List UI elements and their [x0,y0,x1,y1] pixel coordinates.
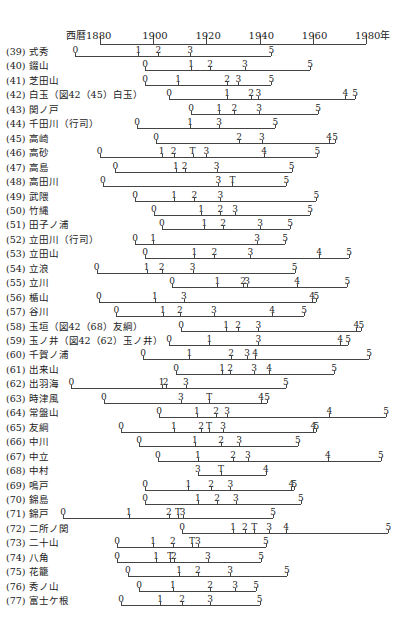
marker-label: 2 [224,75,230,84]
marker-label: 4 [326,133,332,142]
row-label: (71) 錦戸 [6,508,49,519]
marker-label: 5 [345,335,351,344]
marker-label: 2 [212,248,218,257]
marker-label: 3 [190,263,196,272]
row-label: (75) 花籠 [6,566,49,577]
marker-label: 3 [178,393,184,402]
marker-label: 0 [118,422,124,431]
marker-label: 3 [211,306,217,315]
row-label: (74) 八角 [6,552,49,563]
row-span-line [169,345,348,346]
row-label: (54) 立浪 [6,263,49,274]
row-span-line [158,461,381,462]
row-label: (65) 友綱 [6,422,49,433]
row-label: (67) 中立 [6,451,49,462]
marker-label: 0 [132,191,138,200]
row-span-line [121,605,260,606]
row-span-line [145,258,349,259]
marker-label: 1 [175,75,181,84]
row-span-line [154,215,310,216]
marker-label: 5 [283,378,289,387]
row-span-line [145,504,301,505]
row-span-line [104,403,267,404]
row-span-line [135,201,316,202]
marker-label: 5 [287,219,293,228]
marker-label: 3 [251,364,257,373]
marker-label: 3 [187,46,193,55]
marker-label: 1 [152,292,158,301]
marker-label: T [218,465,224,474]
marker-label: 1 [170,581,176,590]
row-span-line [115,172,291,173]
marker-label: 5 [307,60,313,69]
row-label: (57) 谷川 [6,306,49,317]
row-label: (76) 秀ノ山 [6,581,59,592]
marker-label: 2 [166,508,172,517]
row-label: (60) 千賀ノ浦 [6,349,69,360]
marker-label: 0 [96,292,102,301]
marker-label: 3 [195,465,201,474]
marker-label: 4 [316,248,322,257]
marker-label: 2 [195,566,201,575]
marker-label: 5 [268,75,274,84]
marker-label: 5 [272,118,278,127]
marker-label: 2 [248,89,254,98]
marker-label: 0 [132,234,138,243]
axis-tick-label: 1900 [142,31,167,41]
marker-label: 1 [224,89,230,98]
axis-tick-label: 西暦1880 [66,31,111,41]
row-span-line [139,591,256,592]
marker-label: 2 [207,581,213,590]
row-label: (56) 楯山 [6,292,49,303]
marker-label: T [229,176,235,185]
row-label: (77) 富士ケ根 [6,595,69,606]
marker-label: 3 [227,480,233,489]
row-span-line [198,475,266,476]
row-span-line [117,562,261,563]
marker-label: 0 [153,133,159,142]
marker-label: 5 [301,306,307,315]
marker-label: 0 [114,537,120,546]
row-label: (59) 玉ノ井（図42（62）玉ノ井） [6,335,163,346]
marker-label: 2 [171,552,177,561]
marker-label: 1 [195,494,201,503]
axis-tick-label: 1940 [249,31,274,41]
marker-label: 1 [153,552,159,561]
marker-label: 2 [235,321,241,330]
marker-label: 5 [284,566,290,575]
marker-label: 3 [244,349,250,358]
marker-label: 0 [142,248,148,257]
row-span-line [75,56,271,57]
marker-label: 5 [257,595,263,604]
marker-label: 1 [176,566,182,575]
row-label: (55) 立川 [6,277,49,288]
row-span-line [116,316,304,317]
marker-label: 5 [298,494,304,503]
row-label: (63) 時津風 [6,393,59,404]
marker-label: 1 [150,537,156,546]
marker-label: 5 [346,248,352,257]
row-span-line [143,359,369,360]
marker-label: 1 [185,480,191,489]
marker-label: 3 [247,248,253,257]
row-span-line [71,388,286,389]
marker-label: 1 [150,234,156,243]
marker-label: 0 [134,118,140,127]
row-label: (45) 高崎 [6,133,49,144]
marker-label: 5 [314,147,320,156]
marker-label: 1 [171,422,177,431]
marker-label: 0 [68,378,74,387]
row-span-line [97,273,295,274]
marker-label: 5 [313,191,319,200]
marker-label: 1 [219,364,225,373]
marker-label: 5 [313,422,319,431]
marker-label: 3 [220,422,226,431]
row-span-line [103,186,287,187]
row-label: (70) 錦島 [6,494,49,505]
marker-label: 1 [188,60,194,69]
marker-label: 3 [218,191,224,200]
marker-label: 3 [242,60,248,69]
marker-label: 0 [114,552,120,561]
marker-label: 1 [230,523,236,532]
row-span-line [176,374,334,375]
